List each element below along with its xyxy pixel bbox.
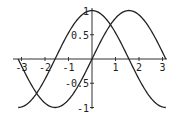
y-tick-label: 0.5	[71, 30, 89, 41]
x-tick-label: -3	[15, 62, 27, 73]
plot: -3-2-1123-1-0.50.51	[0, 0, 177, 117]
x-tick-label: 2	[136, 62, 142, 73]
x-tick-label: 3	[159, 62, 165, 73]
y-tick-label: -1	[77, 103, 89, 114]
x-tick-label: 1	[112, 62, 118, 73]
x-tick-label: -1	[62, 62, 74, 73]
